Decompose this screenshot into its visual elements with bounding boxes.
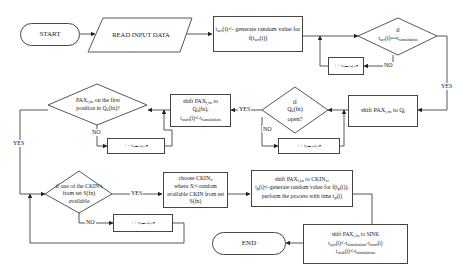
increment-label-2: ++ tₛᵢₘᵤₗₐₜᵢₒₙ <box>297 142 320 149</box>
read-input-label: READ INPUT DATA <box>112 31 170 38</box>
choose-ckin-label: choose CKINxwhere X<-random available CK… <box>164 175 227 206</box>
edge-label-no-arrival: NO <box>383 62 394 69</box>
generate-arrival-label: tarr(i)<- generate random value for f(ta… <box>214 25 302 44</box>
generate-arrival-box: tarr(i)<- generate random value for f(ta… <box>213 16 303 52</box>
increment-label-4: ++ tₛᵢₘᵤₗₐₜᵢₒₙ <box>131 219 154 226</box>
shift-to-sink-label: shift PAXi,fn to SINKtsys(i)<-tsimulatio… <box>328 231 382 256</box>
start-terminal: START <box>20 23 80 46</box>
read-input-node: READ INPUT DATA <box>105 22 177 48</box>
edge-label-yes-ckin: YES <box>130 190 143 197</box>
increment-simulation-box-4: ++ tₛᵢₘᵤₗₐₜᵢₒₙ <box>113 214 173 232</box>
shift-to-ckin-box: shift PAXi,fn to CKINx,tp(i)<-generate r… <box>251 170 353 207</box>
increment-simulation-box-2: ++ tₛᵢₘᵤₗₐₜᵢₒₙ <box>278 138 340 154</box>
end-label: END <box>242 240 256 247</box>
choose-ckin-box: choose CKINxwhere X<-random available CK… <box>163 172 228 208</box>
if-first-position-decision: PAXi,fn on the firstposition in Qs(fn)? <box>62 95 134 115</box>
increment-simulation-box-3: ++ tₛᵢₘᵤₗₐₜᵢₒₙ <box>107 138 165 154</box>
shift-to-qs-box: shift PAXi,fn toQs(fn),tstart(i)<-tsimul… <box>170 94 231 127</box>
edge-label-no-qs: NO <box>262 126 273 133</box>
if-arrival-decision: iftarr(i)==tsimulation <box>366 22 430 48</box>
shift-to-qs-label: shift PAXi,fn toQs(fn),tstart(i)<-tsimul… <box>180 98 221 123</box>
if-qs-open-label: ifQs(fn)open? <box>287 98 303 122</box>
shift-to-qt-label: shift PAXi,fn to Qt <box>361 106 405 115</box>
increment-label-3: ++ tₛᵢₘᵤₗₐₜᵢₒₙ <box>124 142 147 149</box>
shift-to-qt-box: shift PAXi,fn to Qt <box>348 95 418 127</box>
end-terminal: END <box>212 232 286 255</box>
start-label: START <box>39 31 60 38</box>
if-qs-open-decision: ifQs(fn)open? <box>275 96 315 124</box>
edge-label-yes-arrival: YES <box>440 83 453 90</box>
increment-label-1: ++ tₛᵢₘᵤₗₐₜᵢₒₙ <box>334 62 357 69</box>
increment-simulation-box-1: ++ tₛᵢₘᵤₗₐₜᵢₒₙ <box>328 57 364 75</box>
edge-label-yes-qs: YES <box>238 106 251 113</box>
if-first-position-label: PAXi,fn on the firstposition in Qs(fn)? <box>76 97 120 114</box>
edge-label-yes-first: YES <box>12 140 25 147</box>
edge-label-no-first: NO <box>91 129 102 136</box>
edge-label-no-ckin: NO <box>85 219 96 226</box>
if-arrival-label: iftarr(i)==tsimulation <box>378 27 417 43</box>
if-ckin-available-label: if one of the CKIN's from set S(fn) avai… <box>52 183 106 205</box>
if-ckin-available-decision: if one of the CKIN's from set S(fn) avai… <box>52 181 106 207</box>
shift-to-sink-box: shift PAXi,fn to SINKtsys(i)<-tsimulatio… <box>303 224 408 264</box>
shift-to-ckin-label: shift PAXi,fn to CKINx,tp(i)<-generate r… <box>252 176 352 201</box>
